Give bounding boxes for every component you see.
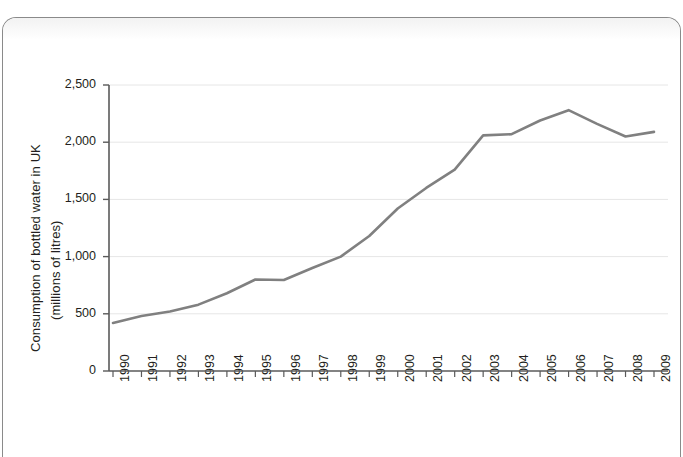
- gridlines: [109, 85, 668, 314]
- axis-ticks: [103, 85, 654, 377]
